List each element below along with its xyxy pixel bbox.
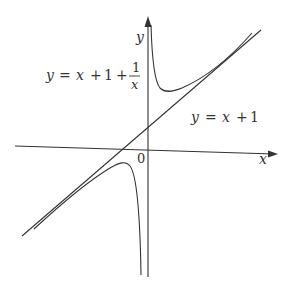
x-axis bbox=[15, 146, 278, 158]
hyperbola-equation-label: y = x + 1 + 1 x bbox=[45, 60, 140, 92]
y-axis bbox=[145, 16, 152, 277]
svg-text:+: + bbox=[116, 67, 128, 83]
asymptote-line bbox=[22, 30, 261, 236]
function-graph: y x 0 y = x + 1 + 1 x y = x + 1 bbox=[0, 0, 294, 292]
svg-text:=: = bbox=[59, 67, 71, 83]
svg-text:x: x bbox=[76, 67, 84, 83]
x-axis-arrow-icon bbox=[268, 151, 278, 158]
svg-text:+: + bbox=[90, 67, 102, 83]
svg-text:x: x bbox=[222, 109, 230, 125]
svg-text:y: y bbox=[45, 67, 55, 83]
svg-text:=: = bbox=[205, 109, 217, 125]
svg-text:1: 1 bbox=[132, 60, 140, 75]
svg-text:+: + bbox=[236, 109, 248, 125]
y-axis-arrow-icon bbox=[145, 16, 152, 27]
y-axis-label: y bbox=[135, 29, 145, 45]
svg-text:1: 1 bbox=[104, 67, 113, 83]
svg-text:1: 1 bbox=[250, 109, 259, 125]
svg-text:y: y bbox=[190, 109, 200, 125]
x-axis-label: x bbox=[259, 151, 267, 167]
asymptote-equation-label: y = x + 1 bbox=[190, 109, 259, 125]
origin-label: 0 bbox=[137, 151, 145, 166]
svg-text:x: x bbox=[131, 77, 139, 92]
